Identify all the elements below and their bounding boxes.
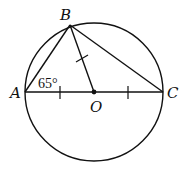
geometry-diagram: B A C O 65° (0, 0, 187, 175)
tick-bo (76, 55, 88, 62)
label-b: B (59, 6, 71, 24)
label-a: A (8, 84, 21, 102)
label-c: C (167, 84, 179, 102)
label-o: O (90, 98, 102, 116)
segment-bc (70, 25, 163, 92)
angle-label: 65° (38, 76, 58, 91)
center-point-o (92, 90, 97, 95)
